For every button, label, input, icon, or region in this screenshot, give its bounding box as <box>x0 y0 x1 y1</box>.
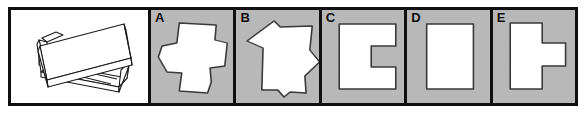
option-panel-b[interactable]: B <box>236 10 321 103</box>
option-panel-c[interactable]: C <box>322 10 407 103</box>
option-label-a: A <box>155 11 164 24</box>
option-label-e: E <box>497 11 506 24</box>
option-label-b: B <box>240 11 249 24</box>
stimulus-panel <box>11 10 151 103</box>
option-panel-a[interactable]: A <box>151 10 236 103</box>
spatial-reasoning-item: A B C D E <box>8 7 578 106</box>
folded-object-figure <box>11 10 148 103</box>
option-panel-d[interactable]: D <box>407 10 492 103</box>
option-label-d: D <box>411 11 420 24</box>
option-label-c: C <box>326 11 335 24</box>
option-panel-e[interactable]: E <box>493 10 575 103</box>
